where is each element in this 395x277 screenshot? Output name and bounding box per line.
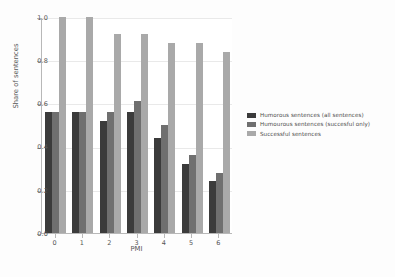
bar bbox=[107, 112, 114, 233]
bar bbox=[216, 173, 223, 233]
chart-figure: 0.00.20.40.60.81.0 Share of sentences 01… bbox=[0, 0, 395, 277]
legend-swatch bbox=[247, 131, 256, 136]
bar-group bbox=[154, 18, 175, 233]
bar bbox=[127, 112, 134, 233]
bar-group bbox=[182, 18, 203, 233]
bar bbox=[182, 164, 189, 233]
x-axis-label: PMI bbox=[41, 245, 232, 253]
x-tick-mark bbox=[164, 234, 165, 238]
legend-item: Humorous sentences (all sentences) bbox=[247, 111, 387, 120]
bar bbox=[59, 17, 66, 233]
x-tick-mark bbox=[218, 234, 219, 238]
bar bbox=[189, 155, 196, 233]
bar bbox=[196, 43, 203, 233]
plot-area bbox=[41, 18, 232, 234]
y-tick-label: 0.4 bbox=[18, 144, 48, 151]
bar-group bbox=[45, 18, 66, 233]
y-tick-label: 0.8 bbox=[18, 58, 48, 65]
bar bbox=[86, 17, 93, 233]
bar bbox=[45, 112, 52, 233]
bar bbox=[52, 112, 59, 233]
legend-label: Humourous sentences (succesful only) bbox=[260, 121, 370, 127]
bar bbox=[141, 34, 148, 233]
bar-group bbox=[209, 18, 230, 233]
y-axis-label: Share of sentences bbox=[12, 11, 20, 141]
bar-group bbox=[72, 18, 93, 233]
legend-item: Humourous sentences (succesful only) bbox=[247, 120, 387, 129]
legend-label: Successful sentences bbox=[260, 131, 321, 137]
legend-swatch bbox=[247, 113, 256, 118]
bar bbox=[161, 125, 168, 233]
bar-group bbox=[100, 18, 121, 233]
bar bbox=[114, 34, 121, 233]
bar-groups bbox=[42, 18, 232, 233]
y-tick-label: 0.2 bbox=[18, 188, 48, 195]
y-tick-label: 0.6 bbox=[18, 101, 48, 108]
x-tick-mark bbox=[82, 234, 83, 238]
x-tick-mark bbox=[109, 234, 110, 238]
x-tick-mark bbox=[191, 234, 192, 238]
bar-group bbox=[127, 18, 148, 233]
legend-swatch bbox=[247, 122, 256, 127]
bar bbox=[168, 43, 175, 233]
chart-legend: Humorous sentences (all sentences)Humour… bbox=[247, 111, 387, 139]
legend-label: Humorous sentences (all sentences) bbox=[260, 112, 364, 118]
bar bbox=[134, 101, 141, 233]
x-tick-mark bbox=[137, 234, 138, 238]
bar bbox=[79, 112, 86, 233]
bar bbox=[209, 181, 216, 233]
bar bbox=[223, 52, 230, 233]
legend-item: Successful sentences bbox=[247, 129, 387, 138]
x-tick-mark bbox=[55, 234, 56, 238]
bar bbox=[72, 112, 79, 233]
y-tick-label: 1.0 bbox=[18, 15, 48, 22]
bar bbox=[100, 121, 107, 233]
bar bbox=[154, 138, 161, 233]
